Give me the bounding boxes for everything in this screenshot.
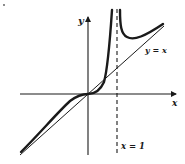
curve-right-branch [120, 10, 163, 38]
asymptote-label: x = 1 [120, 141, 145, 151]
x-axis-label: x [171, 98, 178, 108]
graph-figure: y x x = 1 y = x [0, 0, 185, 164]
scan-dot [3, 4, 5, 6]
y-axis-label: y [77, 15, 85, 26]
line-y-equals-x [20, 26, 164, 155]
line-label: y = x [144, 45, 167, 55]
curve-left-branch [21, 10, 112, 152]
